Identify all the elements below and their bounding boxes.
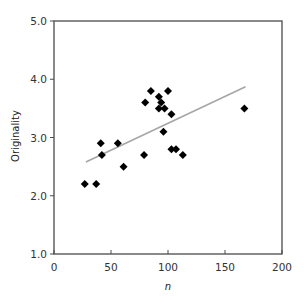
diamond-marker-icon: [97, 139, 105, 147]
x-axis-title: n: [165, 281, 171, 292]
diamond-marker-icon: [141, 99, 149, 107]
y-tick-label: 1.0: [30, 248, 47, 260]
trend-line: [86, 87, 246, 162]
plot-frame: [54, 21, 282, 254]
diamond-marker-icon: [159, 128, 167, 136]
x-tick-label: 150: [215, 261, 235, 273]
diamond-marker-icon: [92, 180, 100, 188]
diamond-marker-icon: [147, 87, 155, 95]
x-tick-label: 100: [158, 261, 178, 273]
y-axis-title: Originality: [10, 110, 21, 162]
diamond-marker-icon: [140, 151, 148, 159]
diamond-marker-icon: [98, 151, 106, 159]
y-axis: 1.02.03.04.05.0: [30, 15, 54, 260]
data-points: [81, 87, 249, 188]
diamond-marker-icon: [164, 87, 172, 95]
x-tick-label: 0: [51, 261, 58, 273]
diamond-marker-icon: [81, 180, 89, 188]
x-tick-label: 200: [272, 261, 292, 273]
y-tick-label: 4.0: [30, 73, 47, 85]
scatter-chart: 1.02.03.04.05.0 050100150200 Originality…: [0, 0, 304, 304]
x-tick-label: 50: [104, 261, 117, 273]
diamond-marker-icon: [120, 163, 128, 171]
diamond-marker-icon: [167, 110, 175, 118]
diamond-marker-icon: [172, 145, 180, 153]
diamond-marker-icon: [179, 151, 187, 159]
y-tick-label: 2.0: [30, 190, 47, 202]
y-tick-label: 3.0: [30, 132, 47, 144]
y-tick-label: 5.0: [30, 15, 47, 27]
diamond-marker-icon: [240, 104, 248, 112]
